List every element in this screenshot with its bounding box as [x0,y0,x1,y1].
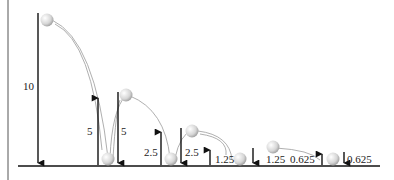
height-arrows [38,13,344,165]
label-up-2-5: 2.5 [144,146,158,158]
ball-peak-2 [186,125,199,138]
label-down-1-25: 1.25 [266,153,286,165]
ball-bounce-1 [102,153,115,166]
bouncing-ball-diagram: 10 5 5 2.5 2.5 1.25 1.25 0.625 0.625 [0,0,394,180]
balls [41,14,340,166]
ball-peak-3 [267,141,280,154]
label-drop-10: 10 [23,80,35,92]
label-down-0-625: 0.625 [347,153,372,165]
ball-bounce-4 [327,153,340,166]
ball-bounce-3 [234,153,247,166]
ball-start [41,14,54,27]
label-down-2-5: 2.5 [185,146,199,158]
ball-bounce-2 [165,153,178,166]
label-up-5: 5 [87,125,93,137]
ball-peak-1 [120,89,133,102]
label-down-5: 5 [121,125,127,137]
trajectory-paths [52,20,320,160]
label-up-1-25: 1.25 [215,153,235,165]
label-up-0-625: 0.625 [290,153,315,165]
